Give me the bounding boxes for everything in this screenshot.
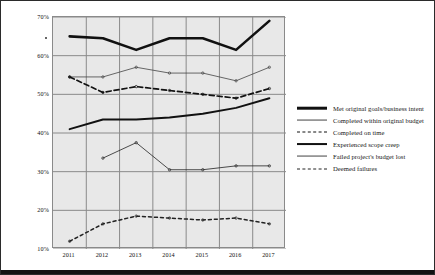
legend-item-label: Experienced scope creep [333, 141, 400, 148]
legend-key-solid-thin [297, 151, 327, 161]
x-tick-label: 2015 [196, 251, 208, 258]
x-tick-label: 2016 [229, 251, 241, 258]
y-tick-label: 20% [37, 206, 49, 213]
legend-key-dashed [297, 127, 327, 137]
y-tick-label: 70% [37, 13, 49, 20]
legend-key-solid-thick [297, 103, 327, 113]
legend-item[interactable]: Completed on time [297, 126, 433, 138]
x-axis: 2011201220132014201520162017 [52, 251, 285, 265]
legend-item[interactable]: Completed within original budget [297, 114, 433, 126]
legend-key-solid-medium [297, 139, 327, 149]
y-tick-label: 50% [37, 90, 49, 97]
plot-area [52, 16, 285, 248]
x-tick-label: 2011 [63, 251, 75, 258]
legend-item[interactable]: Experienced scope creep [297, 138, 433, 150]
x-tick-label: 2012 [96, 251, 108, 258]
series-line [70, 77, 270, 98]
legend-item-label: Completed on time [333, 129, 384, 136]
series-line [70, 98, 270, 129]
legend-key-solid-thin [297, 115, 327, 125]
legend-item-label: Met original goals/business intent [333, 105, 424, 112]
legend-key-dotted [297, 164, 327, 174]
legend-item[interactable]: Deemed failures [297, 162, 433, 174]
y-tick-label: 40% [37, 129, 49, 136]
chart-legend: Met original goals/business intentComple… [297, 102, 433, 175]
series-layer [53, 17, 286, 249]
series-line [70, 216, 270, 241]
x-tick-label: 2013 [129, 251, 141, 258]
legend-item-label: Completed within original budget [333, 117, 424, 124]
legend-item-label: Deemed failures [333, 165, 377, 172]
y-axis: 70%60%50%40%30%20%10% [1, 16, 49, 248]
x-tick-label: 2017 [262, 251, 274, 258]
legend-item[interactable]: Failed project's budget lost [297, 150, 433, 162]
x-tick-label: 2014 [162, 251, 174, 258]
y-tick-label: 60% [37, 51, 49, 58]
legend-item-label: Failed project's budget lost [333, 153, 405, 160]
series-line [70, 21, 270, 50]
y-tick-label: 10% [37, 245, 49, 252]
series-line [103, 143, 269, 170]
y-tick-label: 30% [37, 167, 49, 174]
chart-figure: 70%60%50%40%30%20%10% 201120122013201420… [0, 0, 435, 275]
bottom-rule [1, 270, 434, 274]
legend-item[interactable]: Met original goals/business intent [297, 102, 433, 114]
